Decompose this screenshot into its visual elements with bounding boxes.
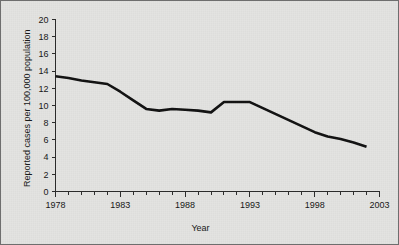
svg-text:2003: 2003 (369, 200, 389, 210)
svg-text:20: 20 (38, 15, 48, 25)
svg-text:8: 8 (43, 118, 48, 128)
svg-text:1978: 1978 (45, 200, 65, 210)
chart-figure: 02468101214161820 1978198319881993199820… (0, 0, 399, 245)
svg-text:0: 0 (43, 187, 48, 197)
svg-text:1983: 1983 (110, 200, 130, 210)
svg-text:1998: 1998 (305, 200, 325, 210)
svg-text:18: 18 (38, 32, 48, 42)
svg-text:16: 16 (38, 49, 48, 59)
svg-text:6: 6 (43, 135, 48, 145)
x-axis-title: Year (1, 223, 399, 233)
svg-text:12: 12 (38, 84, 48, 94)
data-series (56, 76, 367, 147)
svg-text:14: 14 (38, 66, 48, 76)
axes (56, 20, 380, 192)
x-axis-tick-labels: 197819831988199319982003 (45, 200, 389, 210)
svg-text:2: 2 (43, 170, 48, 180)
svg-text:1988: 1988 (175, 200, 195, 210)
svg-text:1993: 1993 (240, 200, 260, 210)
y-axis-tick-labels: 02468101214161820 (38, 15, 48, 197)
svg-text:10: 10 (38, 101, 48, 111)
svg-text:4: 4 (43, 152, 48, 162)
line-chart-plot: 02468101214161820 1978198319881993199820… (1, 1, 399, 245)
y-axis-title: Reported cases per 100,000 population (22, 29, 32, 187)
